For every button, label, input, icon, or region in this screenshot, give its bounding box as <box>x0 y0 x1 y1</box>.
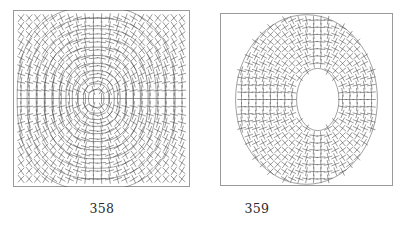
field-tick <box>275 168 281 175</box>
field-tick <box>50 39 55 46</box>
field-tick <box>68 174 71 183</box>
field-tick <box>34 152 40 158</box>
field-tick <box>67 135 72 143</box>
field-tick <box>18 31 25 37</box>
field-tick <box>266 69 274 72</box>
field-tick <box>26 160 32 166</box>
field-tick <box>171 176 177 182</box>
field-tick <box>25 64 33 68</box>
field-tick <box>73 89 81 92</box>
field-tick <box>252 47 260 51</box>
field-tick <box>162 48 169 53</box>
field-tick <box>289 139 295 146</box>
field-tick <box>260 47 267 52</box>
field-tick <box>283 175 288 183</box>
field-tick <box>122 72 129 78</box>
field-tick <box>170 106 178 107</box>
field-tick <box>122 113 129 117</box>
field-tick <box>290 175 294 183</box>
field-tick <box>288 112 296 115</box>
field-tick <box>353 120 361 123</box>
field-tick <box>274 147 281 153</box>
field-tick <box>100 78 103 87</box>
field-tick <box>146 73 154 76</box>
field-tick <box>289 126 296 131</box>
field-tick <box>297 53 302 60</box>
field-tick <box>26 144 33 149</box>
field-tick <box>154 129 162 133</box>
field-tick <box>288 119 296 123</box>
field-tick <box>340 161 344 169</box>
field-tick <box>57 81 65 85</box>
field-tick <box>68 30 72 39</box>
field-tick <box>51 30 56 38</box>
field-tick <box>146 136 153 141</box>
field-tick <box>274 69 282 73</box>
field-tick <box>297 45 301 53</box>
field-tick <box>274 133 282 138</box>
field-tick <box>122 80 129 84</box>
field-tick <box>155 152 162 158</box>
field-tick <box>59 22 63 30</box>
field-tick <box>67 54 72 62</box>
field-tick <box>178 56 186 60</box>
field-tick <box>334 167 337 175</box>
field-tick <box>84 62 87 71</box>
field-tick <box>360 133 368 137</box>
field-tick <box>334 153 338 161</box>
field-tick <box>290 38 295 45</box>
field-tick <box>131 143 137 150</box>
field-tick <box>259 54 267 58</box>
field-tick <box>139 22 144 30</box>
field-tick <box>138 121 146 125</box>
field-tick <box>298 23 301 31</box>
field-tick <box>178 90 186 91</box>
field-tick <box>163 23 169 29</box>
field-tick <box>50 128 57 133</box>
field-tick <box>282 168 287 175</box>
field-tick <box>50 55 56 61</box>
field-tick <box>41 73 49 77</box>
annulus-field-plot-359 <box>220 13 393 186</box>
field-tick <box>274 46 281 52</box>
field-tick <box>259 141 267 145</box>
field-tick <box>346 68 354 73</box>
field-tick <box>259 134 267 138</box>
field-tick <box>267 46 274 51</box>
field-tick <box>170 48 177 53</box>
field-tick <box>274 120 282 123</box>
field-tick <box>283 16 288 24</box>
field-tick <box>333 52 338 60</box>
inner-boundary <box>297 68 339 130</box>
field-tick <box>297 60 302 67</box>
field-tick <box>340 38 345 45</box>
field-tick <box>289 146 294 153</box>
field-tick <box>58 63 64 69</box>
field-tick <box>333 146 337 154</box>
field-tick <box>332 125 338 132</box>
field-tick <box>282 31 287 38</box>
field-tick <box>339 126 346 131</box>
field-tick <box>290 16 294 24</box>
field-tick <box>132 22 136 30</box>
field-tick <box>347 38 353 45</box>
field-tick <box>68 14 71 23</box>
field-tick <box>76 30 79 39</box>
field-tick <box>138 72 146 76</box>
field-tick <box>346 76 354 80</box>
field-tick <box>162 137 169 141</box>
field-tick <box>340 53 346 60</box>
field-tick <box>25 137 32 141</box>
field-tick <box>340 146 345 153</box>
field-tick <box>305 52 308 60</box>
field-tick <box>178 152 185 157</box>
field-tick <box>171 15 177 21</box>
field-tick <box>108 142 111 151</box>
field-tick <box>290 31 294 39</box>
field-tick <box>131 151 136 159</box>
field-tick <box>327 52 330 60</box>
field-tick <box>25 56 32 60</box>
field-tick <box>51 167 56 175</box>
field-tick <box>115 127 120 135</box>
field-tick <box>162 56 169 60</box>
